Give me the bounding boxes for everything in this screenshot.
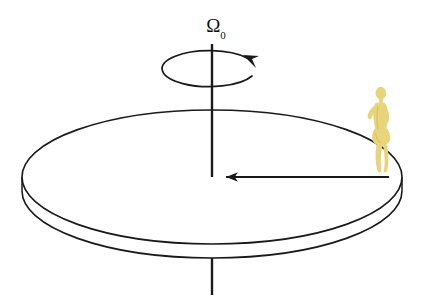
rotating-turntable-diagram: Ω0 (0, 0, 423, 305)
diagram-canvas (0, 0, 423, 305)
spin-arrowhead (243, 55, 259, 68)
omega-symbol: Ω (206, 15, 220, 36)
spin-arc (162, 51, 252, 87)
omega-subscript: 0 (220, 29, 226, 41)
angular-velocity-label: Ω0 (186, 16, 246, 39)
spin-direction-arrow (162, 51, 259, 87)
person-head (376, 87, 387, 100)
person-hips (372, 129, 390, 146)
person-neck (379, 99, 383, 103)
